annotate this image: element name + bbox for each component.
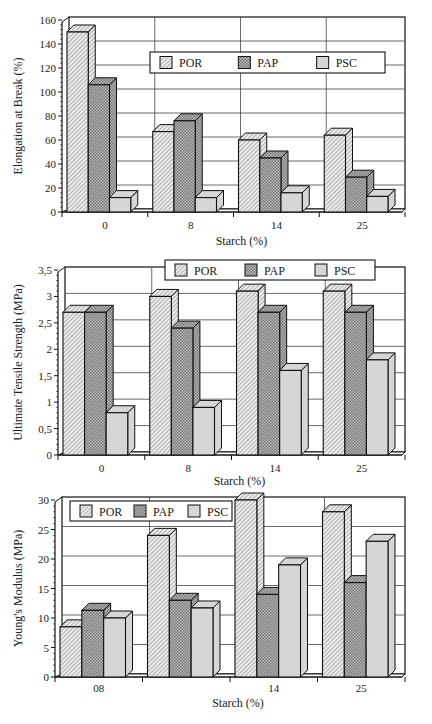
x-tick-label: 25 (357, 219, 369, 231)
legend: PORPAPPSC (70, 501, 232, 521)
y-tick-label: 2 (47, 343, 53, 355)
y-tick-label: 20 (38, 553, 50, 565)
legend-swatch-psc (317, 57, 329, 69)
y-tick-label: 30 (38, 494, 50, 506)
y-axis-label: Ultimate Tensile Strength (MPa) (11, 284, 25, 441)
legend: PORPAPPSC (150, 52, 385, 73)
bar-psc (366, 353, 395, 455)
y-tick-label: 100 (40, 86, 57, 98)
y-tick-label: 160 (40, 14, 57, 26)
legend-label: PSC (207, 505, 228, 519)
x-tick-label: 08 (93, 682, 105, 694)
x-axis-label: Starch (%) (216, 234, 268, 248)
chart-3: 051015202530081425PORPAPPSCStarch (%)You… (11, 493, 405, 710)
legend-swatch-pap (245, 264, 257, 276)
chart-2: 00,511,522,533,5081425PORPAPPSCStarch (%… (11, 260, 405, 488)
x-tick-label: 14 (271, 219, 283, 231)
legend-swatch-por (175, 264, 187, 276)
legend-swatch-pap (238, 57, 250, 69)
y-tick-label: 20 (45, 182, 57, 194)
x-tick-label: 14 (269, 462, 281, 474)
bar-psc (195, 191, 223, 212)
legend-label: PSC (334, 264, 355, 278)
legend-swatch-por (80, 505, 92, 517)
legend-label: PAP (153, 505, 174, 519)
legend-label: PSC (336, 56, 357, 70)
legend-label: POR (194, 264, 217, 278)
bar-psc (279, 558, 308, 677)
bar-psc (193, 400, 222, 455)
y-tick-label: 140 (40, 38, 57, 50)
legend-swatch-psc (188, 505, 200, 517)
x-tick-label: 25 (356, 462, 368, 474)
y-axis-label: Young's Modulus (MPa) (11, 530, 25, 648)
bar-pap (88, 78, 116, 212)
y-tick-label: 10 (38, 612, 50, 624)
y-tick-label: 15 (38, 583, 50, 595)
y-tick-label: 60 (45, 134, 57, 146)
legend-swatch-psc (315, 264, 327, 276)
figure: 020406080100120140160081425PORPAPPSCStar… (0, 0, 432, 724)
bar-psc (366, 534, 395, 677)
chart-figure: 020406080100120140160081425PORPAPPSCStar… (0, 0, 432, 724)
x-axis-label: Starch (%) (212, 696, 264, 710)
y-tick-label: 1,5 (38, 370, 52, 382)
y-tick-label: 120 (40, 62, 57, 74)
y-tick-label: 0 (44, 671, 50, 683)
y-tick-label: 0 (47, 449, 53, 461)
bar-psc (104, 611, 133, 677)
y-tick-label: 40 (45, 158, 57, 170)
y-tick-label: 3,5 (38, 264, 52, 276)
x-tick-label: 25 (356, 682, 368, 694)
x-axis-label: Starch (%) (214, 474, 266, 488)
y-tick-label: 0,5 (38, 423, 52, 435)
y-tick-label: 80 (45, 110, 57, 122)
y-axis-label: Elongation at Break (%) (11, 58, 25, 175)
legend: PORPAPPSC (165, 260, 375, 280)
legend-label: PAP (257, 56, 278, 70)
bar-psc (280, 363, 309, 455)
legend-swatch-pap (134, 505, 146, 517)
legend-label: POR (179, 56, 202, 70)
x-tick-label: 14 (268, 682, 280, 694)
bar-psc (191, 601, 220, 677)
y-tick-label: 3 (47, 290, 53, 302)
bar-psc (106, 406, 135, 455)
x-tick-label: 0 (99, 462, 105, 474)
x-tick-label: 8 (185, 462, 191, 474)
bar-psc (110, 191, 138, 212)
y-tick-label: 25 (38, 524, 50, 536)
legend-label: POR (99, 505, 122, 519)
y-tick-label: 2,5 (38, 317, 52, 329)
legend-label: PAP (264, 264, 285, 278)
y-tick-label: 1 (47, 396, 53, 408)
y-tick-label: 0 (51, 206, 57, 218)
x-tick-label: 8 (188, 219, 194, 231)
bar-psc (281, 186, 309, 212)
x-tick-label: 0 (102, 219, 108, 231)
chart-1: 020406080100120140160081425PORPAPPSCStar… (11, 14, 405, 248)
bar-psc (367, 189, 395, 212)
y-tick-label: 5 (44, 642, 50, 654)
legend-swatch-por (160, 57, 172, 69)
